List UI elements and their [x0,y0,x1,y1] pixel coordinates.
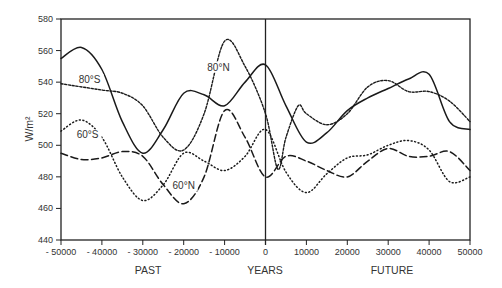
y-tick-label: 560 [38,46,53,56]
insolation-chart: 440460480500520540560580 - 50000- 40000-… [0,0,502,288]
x-tick-label: 40000 [417,247,442,257]
x-axis-title-past: PAST [135,264,162,276]
y-tick-label: 540 [38,77,53,87]
y-tick-label: 460 [38,203,53,213]
y-tick-label: 440 [38,235,53,245]
x-axis-title-future: FUTURE [371,264,414,276]
x-tick-label: - 30000 [128,247,159,257]
series-label-80s: 80°S [79,74,101,85]
y-tick-label: 580 [38,14,53,24]
x-axis: - 50000- 40000- 30000- 20000- 1000001000… [46,240,483,257]
x-tick-label: 50000 [457,247,482,257]
series-label-60n: 60°N [173,180,195,191]
series-labels: 80°S80°N60°S60°N [74,62,233,191]
series-label-80n: 80°N [207,62,229,73]
y-tick-label: 480 [38,172,53,182]
series-label-60s: 60°S [77,129,99,140]
y-tick-label: 500 [38,140,53,150]
x-tick-label: 20000 [335,247,360,257]
x-tick-label: - 40000 [87,247,118,257]
plot-frame [61,19,470,245]
y-axis: 440460480500520540560580 [38,14,61,245]
x-axis-title: YEARS [247,264,283,276]
y-tick-label: 520 [38,109,53,119]
x-tick-label: - 10000 [209,247,240,257]
x-tick-label: 0 [263,247,268,257]
x-tick-label: 10000 [294,247,319,257]
x-tick-label: - 20000 [168,247,199,257]
x-tick-label: - 50000 [46,247,77,257]
y-axis-title: W/m² [23,116,35,142]
x-tick-label: 30000 [376,247,401,257]
